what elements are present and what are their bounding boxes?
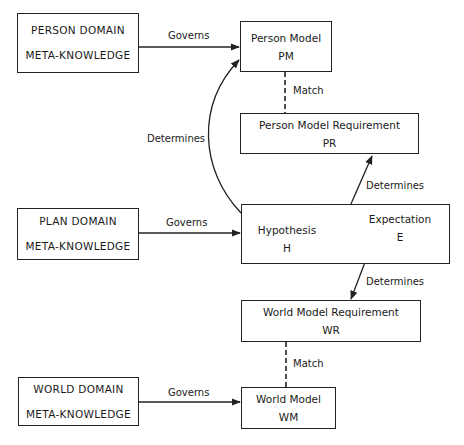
world-domain-box: WORLD DOMAIN META-KNOWLEDGE xyxy=(18,377,139,426)
world-requirement-name: World Model Requirement xyxy=(263,303,399,321)
person-model-box: Person Model PM xyxy=(240,21,332,72)
person-domain-line1: PERSON DOMAIN xyxy=(31,18,125,43)
person-model-name: Person Model xyxy=(251,29,321,47)
expectation-abbr: E xyxy=(360,228,440,246)
determines-pm-label: Determines xyxy=(147,133,205,144)
world-domain-line2: META-KNOWLEDGE xyxy=(26,402,131,427)
world-model-box: World Model WM xyxy=(241,387,336,429)
world-model-abbr: WM xyxy=(279,408,298,426)
governs-plan-label: Governs xyxy=(166,217,207,228)
world-domain-line1: WORLD DOMAIN xyxy=(33,377,123,402)
determines-pr-label: Determines xyxy=(366,180,424,191)
person-requirement-name: Person Model Requirement xyxy=(259,116,400,134)
match-world-label: Match xyxy=(293,358,324,369)
person-domain-line2: META-KNOWLEDGE xyxy=(26,43,131,68)
person-requirement-box: Person Model Requirement PR xyxy=(240,113,419,154)
person-domain-box: PERSON DOMAIN META-KNOWLEDGE xyxy=(17,13,139,73)
hypothesis-abbr: H xyxy=(252,239,322,257)
expectation-name: Expectation xyxy=(360,210,440,228)
hypothesis-text: Hypothesis H xyxy=(252,221,322,257)
world-requirement-abbr: WR xyxy=(322,321,340,339)
determines-pm-curve xyxy=(208,60,241,213)
plan-domain-line1: PLAN DOMAIN xyxy=(39,209,117,234)
match-person-label: Match xyxy=(293,85,324,96)
hypothesis-name: Hypothesis xyxy=(252,221,322,239)
governs-world-label: Governs xyxy=(168,387,209,398)
plan-domain-line2: META-KNOWLEDGE xyxy=(26,234,131,259)
world-model-name: World Model xyxy=(256,390,321,408)
expectation-text: Expectation E xyxy=(360,210,440,246)
plan-domain-box: PLAN DOMAIN META-KNOWLEDGE xyxy=(17,208,139,260)
determines-wr-label: Determines xyxy=(366,276,424,287)
person-model-abbr: PM xyxy=(278,47,293,65)
governs-person-label: Governs xyxy=(168,30,209,41)
person-requirement-abbr: PR xyxy=(323,134,337,152)
world-requirement-box: World Model Requirement WR xyxy=(241,300,421,342)
